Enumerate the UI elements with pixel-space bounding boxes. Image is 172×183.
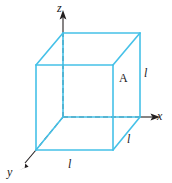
y-axis-arrowhead	[19, 163, 29, 170]
cube-edge-depth-top-left	[36, 33, 63, 65]
edge-length-label-vertical-right: l	[144, 67, 147, 79]
z-axis-label: z	[57, 2, 62, 14]
cube-edge-depth-bottom-left	[36, 117, 63, 150]
cube-diagram-svg	[0, 0, 172, 183]
cube-edges-group	[36, 33, 140, 150]
cube-edge-depth-top-right	[113, 33, 140, 65]
y-axis-solid-segment	[25, 150, 36, 163]
edge-length-label-bottom-right: l	[127, 133, 130, 145]
physics-figure-cube-axes: z x y l l l A	[0, 0, 172, 183]
x-axis-label: x	[157, 110, 162, 122]
face-area-label: A	[119, 72, 128, 84]
y-axis-label: y	[7, 166, 12, 178]
edge-length-label-bottom-front: l	[68, 158, 71, 170]
